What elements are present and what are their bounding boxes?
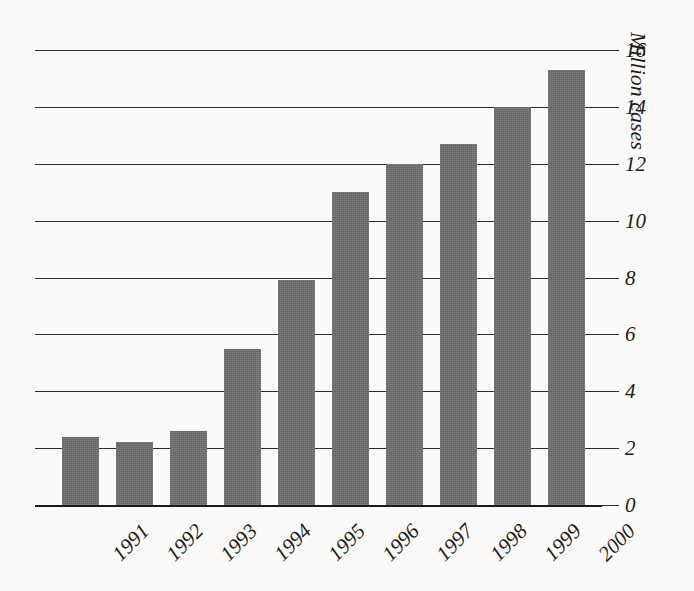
y-tick-label: 2: [625, 436, 636, 461]
x-tick-label: 1996: [377, 519, 424, 566]
x-tick-label: 1992: [161, 519, 208, 566]
y-tick-mark: [602, 50, 619, 51]
plot-area: 0246810121416: [35, 50, 602, 505]
x-tick-label: 1993: [215, 519, 262, 566]
y-tick-mark: [602, 505, 619, 506]
bar: [494, 107, 531, 505]
y-axis-title: Million cases: [625, 32, 651, 150]
y-tick-label: 6: [625, 322, 636, 347]
x-tick-label: 1991: [107, 519, 154, 566]
y-tick-mark: [602, 107, 619, 108]
bar-chart: 0246810121416 19911992199319941995199619…: [0, 0, 694, 591]
x-tick-label: 1997: [431, 519, 478, 566]
bar: [548, 70, 585, 505]
y-tick-mark: [602, 164, 619, 165]
x-axis-tick-labels: 1991199219931994199519961997199819992000: [35, 505, 602, 591]
bars: [35, 50, 602, 505]
bar: [116, 442, 153, 505]
y-tick-label: 4: [625, 379, 636, 404]
bar: [170, 431, 207, 505]
y-tick-mark: [602, 278, 619, 279]
bar: [440, 144, 477, 505]
y-tick-mark: [602, 334, 619, 335]
bar: [62, 437, 99, 505]
y-tick-label: 8: [625, 265, 636, 290]
bar: [386, 164, 423, 505]
y-tick-label: 0: [625, 493, 636, 518]
x-tick-label: 1998: [485, 519, 532, 566]
x-tick-label: 2000: [593, 519, 640, 566]
y-tick-label: 10: [625, 208, 646, 233]
bar: [224, 349, 261, 505]
y-tick-mark: [602, 391, 619, 392]
x-tick-label: 1995: [323, 519, 370, 566]
x-tick-label: 1994: [269, 519, 316, 566]
y-tick-mark: [602, 448, 619, 449]
y-tick-mark: [602, 221, 619, 222]
bar: [278, 280, 315, 505]
y-tick-label: 12: [625, 151, 646, 176]
x-tick-label: 1999: [539, 519, 586, 566]
bar: [332, 192, 369, 505]
